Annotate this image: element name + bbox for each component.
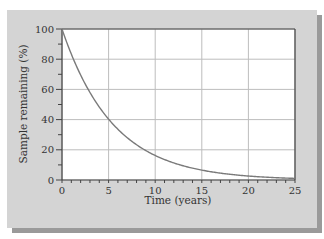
y-tick-label: 80 xyxy=(41,54,54,65)
y-tick-label: 0 xyxy=(48,175,54,186)
y-tick-label: 40 xyxy=(41,114,54,125)
x-axis-title: Time (years) xyxy=(145,194,212,206)
y-tick-label: 100 xyxy=(35,24,54,35)
x-tick-label: 0 xyxy=(59,185,65,196)
x-tick-label: 20 xyxy=(242,185,255,196)
y-tick-label: 60 xyxy=(41,84,54,95)
decay-chart: 0510152025 020406080100 Time (years) Sam… xyxy=(0,0,324,239)
x-tick-label: 5 xyxy=(105,185,111,196)
x-tick-label: 25 xyxy=(289,185,302,196)
y-axis-title: Sample remaining (%) xyxy=(17,45,29,164)
y-tick-label: 20 xyxy=(41,144,54,155)
y-tick-labels: 020406080100 xyxy=(35,24,54,186)
